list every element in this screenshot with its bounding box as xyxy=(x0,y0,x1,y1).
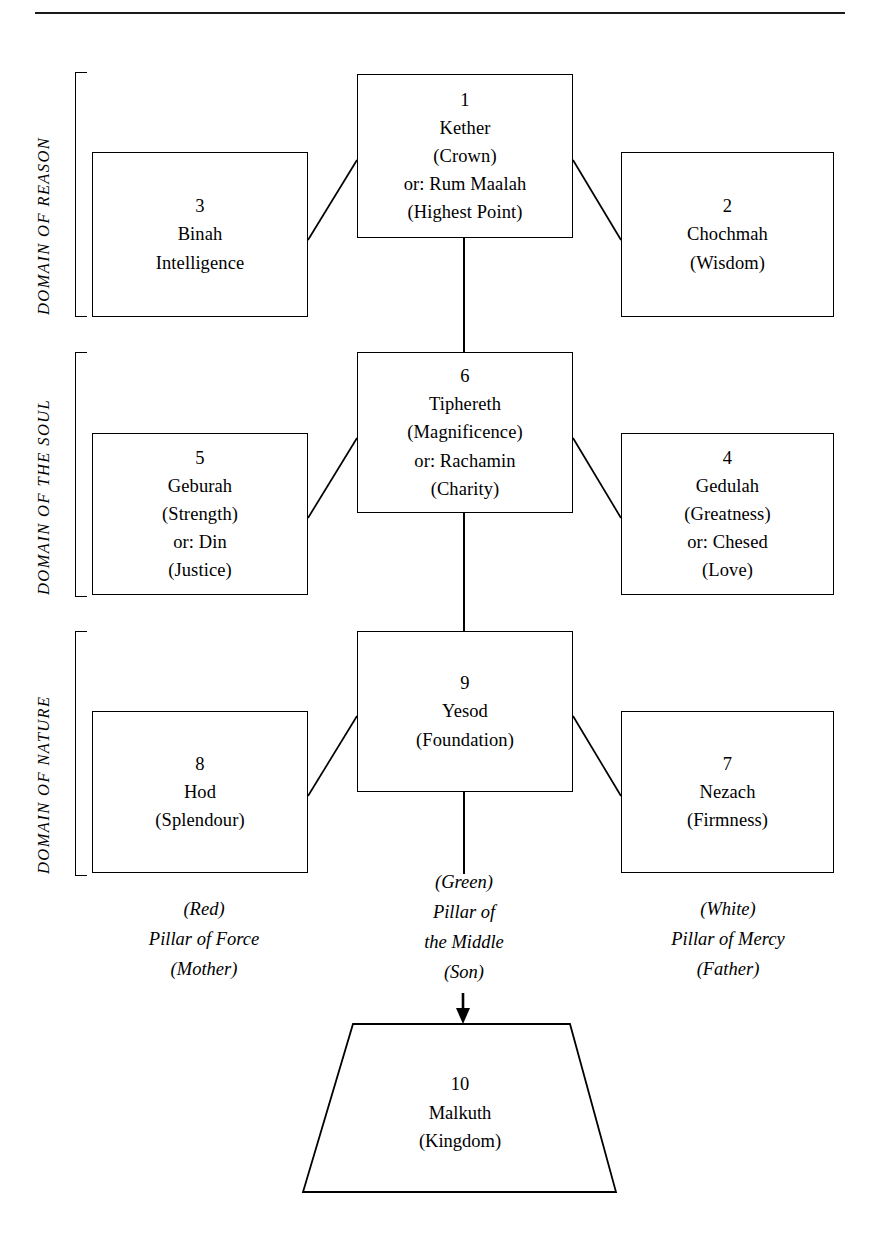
pillar-caption-middle: (Green) Pillar of the Middle (Son) xyxy=(360,868,568,988)
node-geburah-name: Geburah xyxy=(168,472,232,500)
pillar-middle-role: (Son) xyxy=(360,958,568,988)
node-tiphereth-line-3: (Charity) xyxy=(431,475,500,503)
pillar-left-role: (Mother) xyxy=(100,955,308,985)
spine-kether-tiphereth xyxy=(463,238,465,352)
node-nezach-number: 7 xyxy=(723,750,732,778)
node-kether[interactable]: 1 Kether (Crown) or: Rum Maalah (Highest… xyxy=(357,74,573,238)
node-hod-name: Hod xyxy=(184,778,216,806)
node-yesod-name: Yesod xyxy=(442,697,488,725)
node-gedulah[interactable]: 4 Gedulah (Greatness) or: Chesed (Love) xyxy=(621,433,834,595)
node-kether-name: Kether xyxy=(440,114,491,142)
node-gedulah-line-1: (Greatness) xyxy=(684,500,770,528)
node-nezach-line-1: (Firmness) xyxy=(687,806,768,834)
node-malkuth-name: Malkuth xyxy=(295,1099,625,1128)
node-hod-number: 8 xyxy=(195,750,204,778)
node-hod[interactable]: 8 Hod (Splendour) xyxy=(92,711,308,873)
node-binah-number: 3 xyxy=(195,192,204,220)
pillar-left-name: Pillar of Force xyxy=(100,925,308,955)
spine-tiphereth-yesod xyxy=(463,513,465,631)
pillar-middle-name-line-1: Pillar of xyxy=(360,898,568,928)
pillar-right-name: Pillar of Mercy xyxy=(622,925,834,955)
node-malkuth[interactable]: 10 Malkuth (Kingdom) xyxy=(295,1018,625,1203)
node-kether-number: 1 xyxy=(460,86,469,114)
pillar-middle-name-line-2: the Middle xyxy=(360,928,568,958)
node-malkuth-line-1: (Kingdom) xyxy=(295,1127,625,1156)
node-yesod-line-1: (Foundation) xyxy=(416,726,514,754)
node-chochmah-line-1: (Wisdom) xyxy=(690,249,765,277)
node-chochmah-number: 2 xyxy=(723,192,732,220)
node-tiphereth[interactable]: 6 Tiphereth (Magnificence) or: Rachamin … xyxy=(357,352,573,513)
spine-yesod-green xyxy=(463,792,465,874)
node-geburah-line-3: (Justice) xyxy=(168,556,232,584)
node-hod-line-1: (Splendour) xyxy=(155,806,244,834)
node-chochmah[interactable]: 2 Chochmah (Wisdom) xyxy=(621,152,834,317)
node-chochmah-name: Chochmah xyxy=(687,220,768,248)
node-kether-line-1: (Crown) xyxy=(433,142,496,170)
node-gedulah-line-2: or: Chesed xyxy=(687,528,768,556)
pillar-caption-left: (Red) Pillar of Force (Mother) xyxy=(100,895,308,985)
pillar-left-color: (Red) xyxy=(100,895,308,925)
node-nezach-name: Nezach xyxy=(699,778,755,806)
pillar-middle-color: (Green) xyxy=(360,868,568,898)
node-tiphereth-line-1: (Magnificence) xyxy=(407,418,522,446)
node-geburah[interactable]: 5 Geburah (Strength) or: Din (Justice) xyxy=(92,433,308,595)
node-binah-line-1: Intelligence xyxy=(156,249,245,277)
node-gedulah-line-3: (Love) xyxy=(702,556,753,584)
node-gedulah-number: 4 xyxy=(723,444,732,472)
node-kether-line-2: or: Rum Maalah xyxy=(404,170,527,198)
node-geburah-line-1: (Strength) xyxy=(162,500,238,528)
node-kether-line-3: (Highest Point) xyxy=(407,198,522,226)
node-yesod[interactable]: 9 Yesod (Foundation) xyxy=(357,631,573,792)
node-tiphereth-name: Tiphereth xyxy=(429,390,501,418)
pillar-caption-right: (White) Pillar of Mercy (Father) xyxy=(622,895,834,985)
node-tiphereth-number: 6 xyxy=(460,362,469,390)
pillar-right-role: (Father) xyxy=(622,955,834,985)
pillar-right-color: (White) xyxy=(622,895,834,925)
node-tiphereth-line-2: or: Rachamin xyxy=(414,447,515,475)
node-geburah-line-2: or: Din xyxy=(173,528,227,556)
node-yesod-number: 9 xyxy=(460,669,469,697)
tree-of-life-diagram: DOMAIN OF REASON DOMAIN OF THE SOUL DOMA… xyxy=(0,0,878,1246)
node-malkuth-number: 10 xyxy=(295,1070,625,1099)
node-binah-name: Binah xyxy=(178,220,223,248)
node-nezach[interactable]: 7 Nezach (Firmness) xyxy=(621,711,834,873)
node-gedulah-name: Gedulah xyxy=(696,472,759,500)
node-binah[interactable]: 3 Binah Intelligence xyxy=(92,152,308,317)
node-geburah-number: 5 xyxy=(195,444,204,472)
